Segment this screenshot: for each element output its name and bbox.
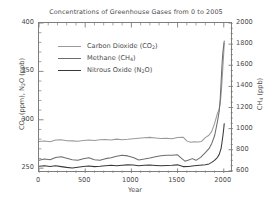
y-right-tick-3: 1200 bbox=[236, 103, 270, 111]
legend-swatch-icon-1 bbox=[58, 58, 81, 59]
legend-label-0: Carbon Dioxide (CO2) bbox=[87, 42, 158, 50]
y-right-tick-4: 1400 bbox=[236, 81, 270, 89]
legend-item-2: Nitrous Oxide (N2O) bbox=[58, 64, 158, 76]
y-right-tick-1: 800 bbox=[236, 145, 270, 153]
legend-swatch-icon-0 bbox=[58, 46, 81, 47]
y-right-tick-0: 600 bbox=[236, 166, 270, 174]
y-axis-left-label: CO2 (ppm), N2O (ppb) bbox=[18, 34, 26, 154]
legend-label-2: Nitrous Oxide (N2O) bbox=[87, 66, 152, 74]
y-left-tick-0: 250 bbox=[2, 163, 34, 171]
legend-swatch-icon-2 bbox=[58, 70, 81, 71]
y-right-tick-5: 1600 bbox=[236, 60, 270, 68]
greenhouse-gas-chart: Concentrations of Greenhouse Gases from … bbox=[0, 0, 272, 204]
x-tick-1: 500 bbox=[67, 176, 101, 184]
y-right-tick-6: 1800 bbox=[236, 39, 270, 47]
series-line-2 bbox=[39, 124, 224, 168]
x-tick-0: 0 bbox=[21, 176, 55, 184]
legend-item-0: Carbon Dioxide (CO2) bbox=[58, 40, 158, 52]
legend-item-1: Methane (CH4) bbox=[58, 52, 158, 64]
x-tick-2: 1000 bbox=[113, 176, 147, 184]
x-tick-4: 2000 bbox=[206, 176, 240, 184]
y-right-tick-7: 2000 bbox=[236, 18, 270, 26]
y-right-tick-2: 1000 bbox=[236, 124, 270, 132]
x-axis-label: Year bbox=[38, 186, 232, 194]
y-axis-right-label: CH4 (ppb) bbox=[256, 34, 264, 154]
chart-title: Concentrations of Greenhouse Gases from … bbox=[0, 8, 272, 16]
y-left-tick-3: 400 bbox=[2, 18, 34, 26]
x-tick-3: 1500 bbox=[160, 176, 194, 184]
legend: Carbon Dioxide (CO2)Methane (CH4)Nitrous… bbox=[58, 40, 158, 76]
legend-label-1: Methane (CH4) bbox=[87, 54, 136, 62]
